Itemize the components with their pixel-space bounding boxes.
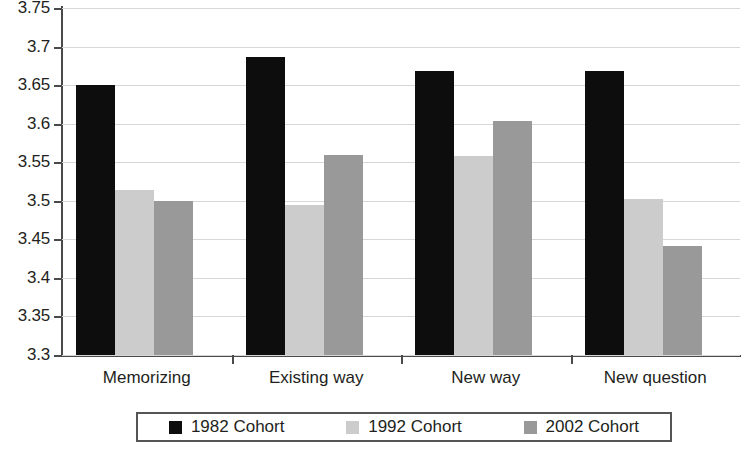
bar	[493, 121, 532, 355]
legend-label-2002: 2002 Cohort	[546, 417, 640, 437]
y-tick-label: 3.75	[18, 0, 50, 18]
bar	[585, 71, 624, 355]
bar-group	[62, 8, 232, 355]
y-tick-label: 3.65	[18, 75, 50, 95]
y-tick-label: 3.7	[27, 37, 50, 57]
x-tick-mark	[401, 355, 403, 364]
x-tick-mark	[571, 355, 573, 364]
bar	[454, 156, 493, 355]
y-tick-label: 3.5	[27, 191, 50, 211]
bar-group	[401, 8, 571, 355]
bar-group	[232, 8, 402, 355]
bar	[624, 199, 663, 355]
bar	[415, 71, 454, 355]
y-tick-label: 3.4	[27, 268, 50, 288]
chart-legend: 1982 Cohort 1992 Cohort 2002 Cohort	[136, 412, 672, 442]
bar-group	[571, 8, 741, 355]
x-tick-mark	[232, 355, 234, 364]
x-tick-label: New question	[571, 368, 741, 388]
bar-chart: 3.753.73.653.63.553.53.453.43.353.3 Memo…	[0, 0, 745, 451]
legend-item-2002: 2002 Cohort	[524, 417, 640, 437]
x-tick-label: Memorizing	[62, 368, 232, 388]
bar	[154, 201, 193, 355]
x-tick-label: Existing way	[232, 368, 402, 388]
bar	[246, 57, 285, 355]
legend-swatch-1982-icon	[169, 421, 182, 434]
legend-item-1982: 1982 Cohort	[169, 417, 285, 437]
legend-label-1982: 1982 Cohort	[191, 417, 285, 437]
y-tick-label: 3.55	[18, 152, 50, 172]
bar	[324, 155, 363, 355]
legend-label-1992: 1992 Cohort	[368, 417, 462, 437]
legend-swatch-1992-icon	[346, 421, 359, 434]
legend-swatch-2002-icon	[524, 421, 537, 434]
bar	[115, 190, 154, 355]
x-tick-label: New way	[401, 368, 571, 388]
y-tick-label: 3.3	[27, 345, 50, 365]
bar	[663, 246, 702, 355]
y-tick-label: 3.6	[27, 114, 50, 134]
legend-item-1992: 1992 Cohort	[346, 417, 462, 437]
y-tick-label: 3.35	[18, 306, 50, 326]
plot-area	[62, 8, 740, 355]
y-tick-label: 3.45	[18, 229, 50, 249]
bar	[76, 85, 115, 355]
bar	[285, 205, 324, 355]
